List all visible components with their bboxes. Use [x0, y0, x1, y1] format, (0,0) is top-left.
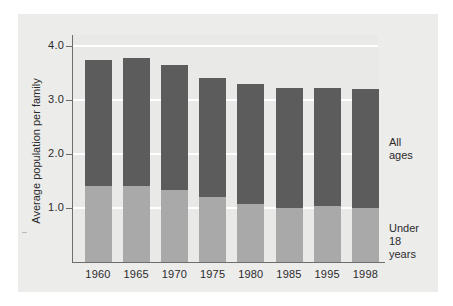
bar-1960	[85, 60, 112, 263]
y-tick-label-4.0: 4.0	[28, 39, 64, 51]
legend-under18-line2: 18	[389, 235, 419, 248]
x-tick-label-1998: 1998	[341, 268, 389, 280]
bar-segment-all-ages-1985	[276, 88, 303, 208]
bar-segment-all-ages-1975	[199, 78, 226, 197]
x-axis-line	[72, 262, 385, 263]
bar-segment-all-ages-1998	[352, 89, 379, 208]
bar-1965	[123, 58, 150, 262]
y-axis-title: Average population per family	[30, 51, 42, 251]
bar-segment-under-18-1998	[352, 208, 379, 262]
bar-segment-under-18-1980	[237, 204, 264, 262]
bar-segment-under-18-1965	[123, 186, 150, 262]
bar-segment-all-ages-1980	[237, 84, 264, 204]
chart-figure: 1.02.03.04.0 Average population per fami…	[0, 0, 453, 306]
bar-1998	[352, 89, 379, 262]
bar-segment-all-ages-1965	[123, 58, 150, 185]
bar-1995	[314, 88, 341, 262]
bar-segment-under-18-1995	[314, 206, 341, 262]
y-axis-line	[72, 35, 73, 263]
bar-segment-all-ages-1970	[161, 65, 188, 190]
bar-1975	[199, 78, 226, 262]
bar-segment-under-18-1985	[276, 208, 303, 262]
legend-all-ages-line2: ages	[389, 149, 413, 162]
scan-artifact-mark	[22, 232, 27, 233]
bar-1985	[276, 88, 303, 262]
bar-segment-under-18-1960	[85, 186, 112, 262]
bar-segment-all-ages-1960	[85, 60, 112, 186]
bar-segment-under-18-1975	[199, 197, 226, 262]
legend-all-ages: All ages	[389, 136, 413, 162]
bar-1970	[161, 65, 188, 262]
legend-under18-line1: Under	[389, 222, 419, 235]
bar-segment-all-ages-1995	[314, 88, 341, 206]
legend-under-18-years: Under 18 years	[389, 222, 419, 261]
gridline-4.0	[73, 45, 378, 47]
legend-all-ages-line1: All	[389, 136, 413, 149]
bar-1980	[237, 84, 264, 262]
bar-segment-under-18-1970	[161, 190, 188, 262]
legend-under18-line3: years	[389, 248, 419, 261]
